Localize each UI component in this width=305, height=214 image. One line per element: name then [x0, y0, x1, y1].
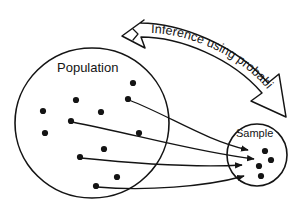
- population-dot: [77, 154, 83, 160]
- population-label: Population: [57, 60, 118, 75]
- population-dot: [42, 130, 48, 136]
- population-dot: [101, 146, 107, 152]
- population-dot: [73, 97, 79, 103]
- sampling-arrow: [81, 158, 242, 166]
- banner-arrow-left-head-notch: [133, 29, 138, 40]
- population-dot: [40, 108, 46, 114]
- banner-label: Inference using probability: [0, 0, 276, 91]
- banner-label-text: Inference using probability: [0, 0, 276, 91]
- population-dot: [68, 118, 74, 124]
- population-dot: [98, 109, 104, 115]
- sample-label: Sample: [236, 127, 273, 139]
- population-dots: [40, 80, 142, 189]
- population-dot: [130, 80, 136, 86]
- sample-dot: [256, 163, 262, 169]
- sample-dot: [268, 157, 274, 163]
- population-dot: [125, 96, 131, 102]
- sample-dots: [256, 148, 274, 179]
- diagram-canvas: Inference using probability Population: [0, 0, 305, 214]
- sample-dot: [262, 148, 268, 154]
- population-dot: [136, 130, 142, 136]
- population-dot: [114, 174, 120, 180]
- population-dot: [93, 183, 99, 189]
- inference-diagram-svg: Inference using probability Population: [0, 0, 305, 214]
- sample-dot: [258, 173, 264, 179]
